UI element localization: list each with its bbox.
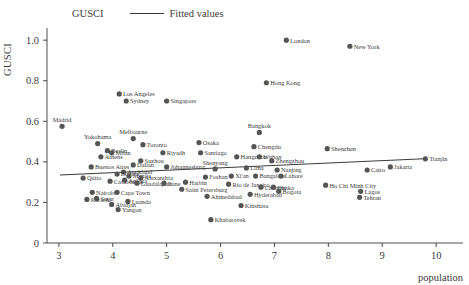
y-tick-label: 0.8 xyxy=(26,75,39,86)
data-point-label: Santiago xyxy=(204,149,226,156)
data-point-marker xyxy=(248,192,253,197)
data-point-marker xyxy=(140,142,145,147)
x-tick-label: 8 xyxy=(326,250,331,261)
data-point-marker xyxy=(284,38,289,43)
data-point-label: Hyderabad xyxy=(254,191,283,198)
data-point-label: Karachi xyxy=(91,196,111,203)
data-point-marker xyxy=(90,190,95,195)
data-point-marker xyxy=(208,217,213,222)
data-point-label: Jakarta xyxy=(394,163,412,170)
data-point-marker xyxy=(107,179,112,184)
data-point-label: Chengdu xyxy=(258,143,282,150)
data-point-label: Osaka xyxy=(203,139,219,146)
data-point-label: Quito xyxy=(87,174,102,181)
y-tick-label: 1.0 xyxy=(26,35,39,46)
data-point-marker xyxy=(347,44,352,49)
data-point-label: Riyadh xyxy=(167,149,186,156)
data-point-label: Madrid xyxy=(53,116,73,123)
plot-canvas: 00.20.40.60.81.0 345678910 LondonNew Yor… xyxy=(0,0,469,285)
data-point-marker xyxy=(278,173,283,178)
data-point-marker xyxy=(204,194,209,199)
data-point-label: Xi'an xyxy=(235,172,249,179)
x-tick-label: 9 xyxy=(380,250,385,261)
y-tick-label: 0.4 xyxy=(26,156,40,167)
data-point-label: Toronto xyxy=(147,141,167,148)
x-tick-label: 3 xyxy=(56,250,61,261)
data-point-marker xyxy=(131,136,136,141)
data-point-label: Los Angeles xyxy=(123,90,155,97)
x-tick-label: 6 xyxy=(218,250,223,261)
data-point-marker xyxy=(325,146,330,151)
y-tick-label: 0.2 xyxy=(26,197,39,208)
data-point-marker xyxy=(213,166,218,171)
data-point-marker xyxy=(388,164,393,169)
data-point-marker xyxy=(183,180,188,185)
data-point-label: Sydney xyxy=(130,97,150,104)
data-point-label: Dalian xyxy=(137,161,155,168)
data-point-marker xyxy=(164,164,169,169)
data-point-label: Athens xyxy=(105,153,124,160)
data-point-label: Yangon xyxy=(122,206,142,213)
data-point-marker xyxy=(251,144,256,149)
data-point-label: Yokohama xyxy=(84,133,112,140)
y-tick-label: 0 xyxy=(34,238,39,249)
data-point-marker xyxy=(258,185,263,190)
data-point-marker xyxy=(264,80,269,85)
data-point-marker xyxy=(229,173,234,178)
data-point-marker xyxy=(253,173,258,178)
data-point-label: Buenos Aires xyxy=(95,163,130,170)
data-point-marker xyxy=(109,202,114,207)
data-point-marker xyxy=(160,150,165,155)
x-axis: 345678910 xyxy=(47,243,463,261)
data-points-layer: LondonNew YorkHong KongLos AngelesSydney… xyxy=(53,37,449,224)
data-point-marker xyxy=(161,181,166,186)
data-point-marker xyxy=(257,154,262,159)
data-point-label: Cape Town xyxy=(121,189,151,196)
data-point-marker xyxy=(114,171,119,176)
data-point-marker xyxy=(131,162,136,167)
data-point-label: Johannesburg xyxy=(170,163,206,170)
data-point-label: Tehran xyxy=(363,194,381,201)
data-point-label: Bangkok xyxy=(248,122,272,129)
data-point-marker xyxy=(357,195,362,200)
data-point-marker xyxy=(271,185,276,190)
data-point-marker xyxy=(269,158,274,163)
x-tick-label: 5 xyxy=(164,250,169,261)
data-point-label: Bogota xyxy=(283,188,302,195)
data-point-marker xyxy=(238,203,243,208)
data-point-label: Shenzhen xyxy=(331,145,357,152)
data-point-label: Lahore xyxy=(285,172,303,179)
x-tick-label: 10 xyxy=(431,250,442,261)
data-point-label: Harbin xyxy=(189,179,208,186)
data-point-label: Saint Petersburg xyxy=(186,186,229,193)
data-point-marker xyxy=(365,167,370,172)
data-point-label: London xyxy=(290,37,311,44)
scatter-plot-figure: GUSCI Fitted values GUSCI population 00.… xyxy=(0,0,469,285)
data-point-marker xyxy=(59,124,64,129)
data-point-label: Pune xyxy=(168,180,181,187)
x-tick-label: 4 xyxy=(110,250,116,261)
data-point-label: Hong Kong xyxy=(270,79,301,86)
data-point-marker xyxy=(84,197,89,202)
data-point-marker xyxy=(323,183,328,188)
data-point-marker xyxy=(244,165,249,170)
data-point-label: Shenyang xyxy=(203,159,229,166)
data-point-label: Cairo xyxy=(371,166,385,173)
data-point-marker xyxy=(95,141,100,146)
y-axis: 00.20.40.60.81.0 xyxy=(26,28,47,249)
data-point-marker xyxy=(124,98,129,103)
data-point-label: Singapore xyxy=(170,97,196,104)
data-point-label: Zhengzhou xyxy=(276,157,306,164)
data-point-marker xyxy=(198,150,203,155)
data-point-marker xyxy=(196,140,201,145)
data-point-marker xyxy=(234,154,239,159)
data-point-marker xyxy=(89,164,94,169)
data-point-label: Khabarovsk xyxy=(215,216,247,223)
x-tick-label: 7 xyxy=(272,250,277,261)
y-tick-label: 0.6 xyxy=(26,116,39,127)
data-point-label: Lima xyxy=(250,164,264,171)
data-point-marker xyxy=(164,98,169,103)
data-point-marker xyxy=(116,207,121,212)
data-point-label: Melbourne xyxy=(119,128,147,135)
data-point-marker xyxy=(117,91,122,96)
